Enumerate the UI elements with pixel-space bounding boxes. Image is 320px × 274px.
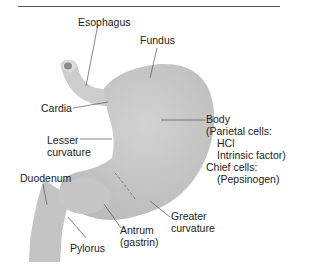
label-antrum: Antrum (gastrin) bbox=[120, 224, 159, 248]
label-esophagus: Esophagus bbox=[78, 16, 131, 28]
greater-line-1: Greater bbox=[171, 210, 215, 222]
lesser-line-2: curvature bbox=[47, 146, 91, 158]
body-line-4: Intrinsic factor) bbox=[206, 149, 286, 161]
label-body: Body (Parietal cells: HCl Intrinsic fact… bbox=[206, 113, 286, 185]
body-line-3: HCl bbox=[206, 137, 286, 149]
antrum-line-1: Antrum bbox=[120, 224, 159, 236]
label-fundus: Fundus bbox=[140, 34, 175, 46]
body-line-5: Chief cells: bbox=[206, 161, 286, 173]
label-lesser-curvature: Lesser curvature bbox=[47, 134, 91, 158]
label-cardia: Cardia bbox=[41, 102, 72, 114]
greater-line-2: curvature bbox=[171, 222, 215, 234]
body-line-2: (Parietal cells: bbox=[206, 125, 286, 137]
lesser-line-1: Lesser bbox=[47, 134, 91, 146]
antrum-line-2: (gastrin) bbox=[120, 236, 159, 248]
body-line-6: (Pepsinogen) bbox=[206, 173, 286, 185]
label-pylorus: Pylorus bbox=[70, 242, 105, 254]
body-line-1: Body bbox=[206, 113, 286, 125]
label-duodenum: Duodenum bbox=[20, 172, 71, 184]
label-greater-curvature: Greater curvature bbox=[171, 210, 215, 234]
